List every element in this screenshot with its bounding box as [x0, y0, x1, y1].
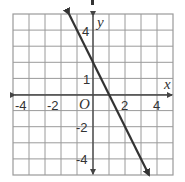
x-axis-label: x: [163, 76, 171, 92]
y-tick-1: 1: [83, 72, 90, 87]
y-tick-neg4: -4: [76, 152, 88, 167]
top-mark: [91, 0, 94, 5]
x-tick-2: 2: [121, 98, 128, 113]
x-tick-neg4: -4: [15, 98, 27, 113]
x-tick-4: 4: [153, 98, 160, 113]
y-tick-4: 4: [82, 24, 89, 39]
x-tick-neg2: -2: [47, 98, 59, 113]
origin-label: O: [79, 96, 90, 112]
coordinate-graph: x y O -4 -2 2 4 4 1 -2 -4: [0, 0, 185, 182]
y-tick-neg2: -2: [76, 120, 88, 135]
y-axis-label: y: [95, 14, 104, 30]
